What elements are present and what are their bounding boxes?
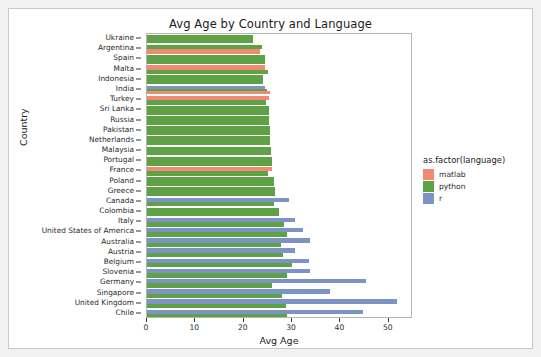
bar-slot: [147, 294, 411, 298]
bar-python[interactable]: [147, 177, 274, 186]
bar-python[interactable]: [147, 304, 286, 308]
y-tick-mark: [136, 170, 141, 171]
y-tick-mark: [136, 150, 141, 151]
y-tick-label: Spain: [113, 55, 134, 62]
y-tick-mark: [136, 129, 141, 130]
y-tick-mark: [136, 119, 141, 120]
x-tick-label: 40: [335, 323, 345, 332]
y-tick-label: Italy: [118, 218, 134, 225]
bar-slot: [147, 263, 411, 267]
y-tick-label: Slovenia: [103, 268, 134, 275]
x-tick-mark: [339, 318, 340, 322]
y-tick-mark: [136, 88, 141, 89]
bar-python[interactable]: [147, 208, 279, 217]
bars-layer: [147, 34, 411, 317]
legend-item-r[interactable]: r: [423, 193, 527, 204]
bar-python[interactable]: [147, 147, 271, 156]
bar-python[interactable]: [147, 243, 281, 247]
y-tick-mark: [136, 272, 141, 273]
x-tick-mark: [243, 318, 244, 322]
legend-title: as.factor(language): [423, 155, 527, 165]
y-tick-label: Russia: [110, 116, 134, 123]
bar-python[interactable]: [147, 75, 263, 84]
bar-python[interactable]: [147, 273, 287, 277]
bar-python[interactable]: [147, 171, 268, 175]
bar-python[interactable]: [147, 116, 269, 125]
y-tick-mark: [136, 211, 141, 212]
y-tick-label: Turkey: [110, 95, 134, 102]
bar-python[interactable]: [147, 70, 268, 74]
bar-slot: [147, 243, 411, 247]
y-tick-label: Singapore: [97, 289, 134, 296]
bar-group: [147, 268, 411, 278]
bar-python[interactable]: [147, 263, 292, 267]
bar-group: [147, 217, 411, 227]
x-tick-mark: [388, 318, 389, 322]
x-tick-mark: [194, 318, 195, 322]
x-tick-label: 20: [238, 323, 248, 332]
bar-group: [147, 197, 411, 207]
y-tick-mark: [136, 58, 141, 59]
bar-python[interactable]: [147, 126, 270, 135]
bar-slot: [147, 91, 411, 94]
bar-python[interactable]: [147, 222, 284, 226]
y-tick-mark: [136, 302, 141, 303]
bar-python[interactable]: [147, 157, 272, 166]
bar-group: [147, 95, 411, 105]
bar-group: [147, 75, 411, 85]
y-tick-mark: [136, 48, 141, 49]
bar-python[interactable]: [147, 232, 287, 236]
y-tick-label: Ukraine: [105, 34, 134, 41]
bar-group: [147, 115, 411, 125]
bar-python[interactable]: [147, 187, 275, 196]
legend-label-matlab: matlab: [439, 170, 466, 179]
y-tick-mark: [136, 312, 141, 313]
bar-slot: [147, 202, 411, 206]
legend-swatch-matlab: [423, 169, 434, 180]
bar-group: [147, 126, 411, 136]
legend-item-matlab[interactable]: matlab: [423, 169, 527, 180]
y-tick-label: Canada: [106, 197, 134, 204]
y-tick-label: Australia: [101, 238, 134, 245]
bar-group: [147, 187, 411, 197]
y-tick-label: Colombia: [99, 207, 134, 214]
y-tick-label: Argentina: [98, 45, 134, 52]
y-tick-mark: [136, 190, 141, 191]
bar-group: [147, 258, 411, 268]
bar-python[interactable]: [147, 136, 270, 145]
bar-matlab[interactable]: [147, 91, 270, 94]
chart-title: Avg Age by Country and Language: [9, 17, 532, 31]
y-tick-mark: [136, 180, 141, 181]
bar-group: [147, 238, 411, 248]
bar-python[interactable]: [147, 35, 253, 44]
y-tick-label: India: [116, 85, 134, 92]
bar-group: [147, 156, 411, 166]
x-tick-label: 0: [144, 323, 149, 332]
bar-python[interactable]: [147, 294, 282, 298]
x-tick-label: 50: [383, 323, 393, 332]
bar-slot: [147, 171, 411, 175]
y-tick-label: Portugal: [103, 157, 134, 164]
bar-slot: [147, 208, 411, 217]
bar-python[interactable]: [147, 253, 283, 257]
bar-slot: [147, 106, 411, 115]
bar-group: [147, 166, 411, 176]
bar-slot: [147, 49, 411, 53]
bar-python[interactable]: [147, 202, 274, 206]
y-tick-label: Chile: [116, 309, 135, 316]
bar-group: [147, 65, 411, 75]
bar-group: [147, 44, 411, 54]
y-tick-mark: [136, 109, 141, 110]
legend-item-python[interactable]: python: [423, 181, 527, 192]
bar-slot: [147, 70, 411, 74]
bar-matlab[interactable]: [147, 49, 260, 53]
bar-python[interactable]: [147, 106, 269, 115]
bar-python[interactable]: [147, 55, 265, 64]
bar-python[interactable]: [147, 283, 272, 287]
bar-slot: [147, 187, 411, 196]
y-tick-label: Pakistan: [103, 126, 134, 133]
plot-panel: [146, 33, 412, 318]
y-tick-mark: [136, 292, 141, 293]
bar-group: [147, 227, 411, 237]
bar-python[interactable]: [147, 100, 266, 104]
